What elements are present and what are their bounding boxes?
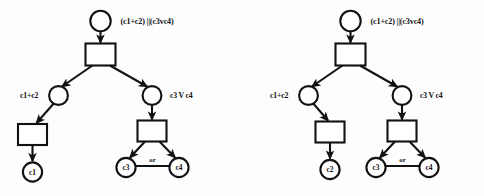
right-edge-to-left-branch: [312, 66, 343, 87]
right-leaf-c2-label: c2: [327, 165, 334, 174]
left-root-expression-label: (c1+c2) ||(c3vc4): [121, 17, 174, 26]
left-edge-to-right-branch: [110, 66, 147, 87]
left-leaf-c3-label: c3: [123, 163, 130, 172]
right-branch-right-transition[interactable]: [388, 121, 417, 142]
left-leaf-c1-label: c1: [29, 168, 36, 177]
left-edge-transition-to-c4: [160, 142, 176, 158]
right-root-transition[interactable]: [336, 44, 366, 66]
diagram-right: c2 c3 c4 or (c1+c2) ||(c3vc4) c1+c2 c3 V…: [270, 11, 443, 179]
left-branch-left-transition[interactable]: [18, 124, 47, 145]
left-root-transition[interactable]: [86, 44, 116, 66]
right-root-expression-text: (c1+c2) ||(c3vc4): [371, 17, 424, 26]
left-branch-right-transition[interactable]: [138, 121, 167, 142]
right-edge-to-right-branch: [360, 66, 397, 87]
left-branch-left-label: c1+c2: [20, 91, 38, 100]
left-branch-left-place[interactable]: [49, 86, 68, 105]
right-leaf-c3-label: c3: [373, 163, 380, 172]
figure-svg: c1 c3 c4 or (c1+c2) ||(c3vc4) c1+c2 c3 V…: [0, 0, 484, 196]
right-root-expression-label: (c1+c2) ||(c3vc4): [371, 17, 424, 26]
right-edge-leftbranch-to-transition: [314, 104, 329, 121]
right-edge-transition-to-c4: [410, 142, 426, 158]
left-edge-transition-to-c3: [130, 142, 145, 158]
left-root-place[interactable]: [90, 11, 110, 31]
right-branch-left-place[interactable]: [299, 86, 318, 105]
right-branch-right-label: c3 V c4: [420, 91, 443, 100]
left-or-label: or: [149, 156, 156, 163]
right-edge-transition-to-c3: [380, 142, 395, 158]
right-branch-left-transition[interactable]: [316, 122, 345, 143]
left-edge-to-left-branch: [62, 66, 93, 87]
left-branch-right-label: c3 V c4: [170, 91, 193, 100]
left-root-expression-text: (c1+c2) ||(c3vc4): [121, 17, 174, 26]
left-edge-leftbranch-to-transition: [37, 104, 54, 123]
right-root-place[interactable]: [340, 11, 360, 31]
right-branch-left-label: c1+c2: [270, 91, 288, 100]
left-leaf-c4-label: c4: [176, 163, 183, 172]
right-leaf-c4-label: c4: [426, 163, 433, 172]
right-or-label: or: [399, 156, 406, 163]
diagram-left: c1 c3 c4 or (c1+c2) ||(c3vc4) c1+c2 c3 V…: [18, 11, 193, 182]
left-branch-right-place[interactable]: [143, 86, 162, 105]
diagram-canvas: c1 c3 c4 or (c1+c2) ||(c3vc4) c1+c2 c3 V…: [0, 0, 484, 196]
right-branch-right-place[interactable]: [393, 86, 412, 105]
